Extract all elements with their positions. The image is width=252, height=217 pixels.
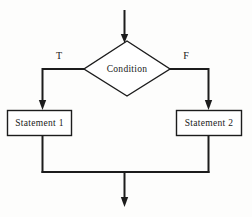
false-branch-arrowhead [205, 100, 212, 110]
merge-edges [42, 135, 210, 173]
true-branch-label: T [56, 50, 62, 61]
decision-node[interactable]: Condition [84, 41, 170, 96]
flowchart-diagram: Condition T F Statement 1 Statement 2 [0, 0, 252, 217]
false-branch-edge [170, 68, 212, 110]
statement-2-node[interactable]: Statement 2 [177, 111, 242, 136]
entry-arrow [121, 10, 128, 43]
statement-2-label: Statement 2 [185, 118, 233, 128]
decision-label: Condition [107, 64, 148, 74]
statement-1-label: Statement 1 [15, 118, 63, 128]
true-branch-arrowhead [39, 100, 46, 110]
true-branch-edge [39, 68, 84, 110]
exit-arrowhead [121, 197, 128, 207]
flowchart-canvas: Condition T F Statement 1 Statement 2 [0, 0, 252, 217]
false-branch-label: F [183, 50, 189, 61]
exit-arrow [121, 172, 128, 207]
statement-1-node[interactable]: Statement 1 [8, 111, 72, 136]
